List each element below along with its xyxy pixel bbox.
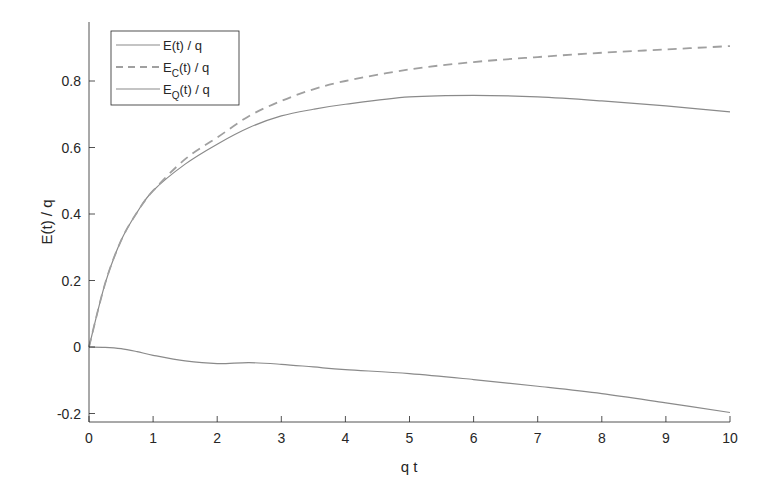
legend: E(t) / qEC(t) / qEQ(t) / q — [111, 31, 239, 105]
x-axis-label: q t — [401, 458, 419, 475]
line-chart: 012345678910-0.200.20.40.60.8 E(t) / qEC… — [0, 0, 773, 492]
series-line-0 — [89, 95, 730, 347]
y-tick-label: 0.6 — [62, 140, 82, 156]
x-tick-label: 3 — [277, 430, 285, 446]
x-tick-label: 8 — [598, 430, 606, 446]
series-line-2 — [89, 347, 730, 413]
y-axis-label: E(t) / q — [38, 199, 55, 244]
x-tick-label: 7 — [534, 430, 542, 446]
y-tick-label: -0.2 — [57, 406, 81, 422]
x-tick-label: 5 — [406, 430, 414, 446]
x-tick-label: 2 — [213, 430, 221, 446]
y-tick-label: 0.2 — [62, 273, 82, 289]
x-tick-label: 9 — [662, 430, 670, 446]
x-tick-label: 10 — [722, 430, 738, 446]
x-tick-label: 1 — [149, 430, 157, 446]
legend-label-0: E(t) / q — [163, 38, 202, 53]
x-tick-label: 6 — [470, 430, 478, 446]
y-tick-label: 0.4 — [62, 206, 82, 222]
y-tick-label: 0 — [73, 339, 81, 355]
x-tick-label: 0 — [85, 430, 93, 446]
x-tick-label: 4 — [342, 430, 350, 446]
y-tick-label: 0.8 — [62, 73, 82, 89]
